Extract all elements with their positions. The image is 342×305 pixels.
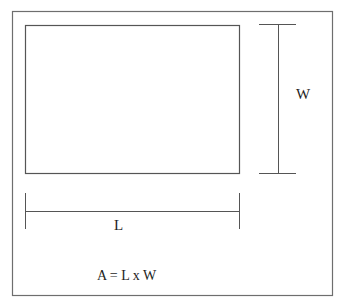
area-formula-label: A = L x W — [97, 269, 156, 283]
length-label: L — [114, 218, 123, 232]
rectangle-shape — [26, 26, 240, 174]
diagram-svg — [0, 0, 342, 305]
length-dimension-line — [26, 193, 240, 229]
outer-frame — [13, 12, 333, 296]
width-label: W — [296, 87, 310, 101]
diagram-canvas: W L A = L x W — [0, 0, 342, 305]
width-dimension-line — [259, 25, 296, 174]
